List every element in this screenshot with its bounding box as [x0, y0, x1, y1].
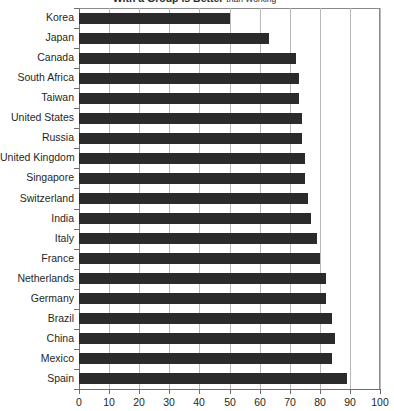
x-axis-label: 10 [94, 396, 124, 408]
y-axis-tick [74, 369, 79, 370]
bar [79, 333, 335, 344]
x-axis-label: 30 [154, 396, 184, 408]
gridline [380, 8, 381, 389]
chart-title-sub: than Working [226, 0, 276, 4]
y-axis-label: Canada [0, 52, 74, 63]
y-axis-label: United Kingdom [0, 152, 74, 163]
y-axis-tick [74, 28, 79, 29]
x-axis-label: 40 [184, 396, 214, 408]
y-axis-label: Germany [0, 293, 74, 304]
bar-row [79, 333, 380, 344]
bar [79, 13, 230, 24]
bar-row [79, 233, 380, 244]
y-axis-tick [74, 269, 79, 270]
x-axis-label: 80 [305, 396, 335, 408]
bar [79, 33, 269, 44]
y-axis-labels: KoreaJapanCanadaSouth AfricaTaiwanUnited… [0, 8, 74, 389]
bar-row [79, 133, 380, 144]
x-axis-tick [320, 389, 321, 394]
bar-row [79, 313, 380, 324]
x-axis-tick [109, 389, 110, 394]
y-axis-tick [74, 8, 79, 9]
y-axis-label: United States [0, 112, 74, 123]
y-axis-tick [74, 68, 79, 69]
bar-row [79, 173, 380, 184]
y-axis-label: South Africa [0, 72, 74, 83]
x-axis-tick [350, 389, 351, 394]
bar-row [79, 353, 380, 364]
bars-layer [79, 8, 380, 389]
bar [79, 93, 299, 104]
y-axis-label: Brazil [0, 313, 74, 324]
bar [79, 373, 347, 384]
bar [79, 173, 305, 184]
y-axis-label: Japan [0, 32, 74, 43]
y-axis-label: Italy [0, 233, 74, 244]
y-axis-tick [74, 188, 79, 189]
bar-row [79, 93, 380, 104]
bar [79, 273, 326, 284]
bar-row [79, 53, 380, 64]
y-axis-tick [74, 88, 79, 89]
x-axis-tick [230, 389, 231, 394]
bar-row [79, 253, 380, 264]
y-axis-label: China [0, 333, 74, 344]
bar [79, 133, 302, 144]
x-axis-label: 70 [275, 396, 305, 408]
y-axis-tick [74, 209, 79, 210]
y-axis-label: India [0, 213, 74, 224]
bar-row [79, 273, 380, 284]
x-axis-tick [260, 389, 261, 394]
y-axis-label: Mexico [0, 353, 74, 364]
x-axis-tick [169, 389, 170, 394]
x-axis-tick [79, 389, 80, 394]
bar-row [79, 213, 380, 224]
y-axis-label: Singapore [0, 172, 74, 183]
chart-title-main: With a Group is Better [113, 0, 224, 4]
y-axis-label: Russia [0, 132, 74, 143]
y-axis-tick [74, 329, 79, 330]
y-axis-tick [74, 148, 79, 149]
y-axis-label: Spain [0, 373, 74, 384]
bar [79, 353, 332, 364]
bar [79, 153, 305, 164]
bar [79, 253, 320, 264]
y-axis-tick [74, 349, 79, 350]
y-axis-label: France [0, 253, 74, 264]
y-axis-tick [74, 229, 79, 230]
bar-row [79, 113, 380, 124]
bar [79, 73, 299, 84]
y-axis-label: Switzerland [0, 193, 74, 204]
bar-row [79, 13, 380, 24]
bar [79, 53, 296, 64]
x-axis-tick [380, 389, 381, 394]
y-axis-label: Taiwan [0, 92, 74, 103]
chart-title: With a Group is Better than Working [0, 0, 389, 4]
y-axis-tick [74, 108, 79, 109]
bar [79, 233, 317, 244]
bar [79, 193, 308, 204]
bar [79, 313, 332, 324]
y-axis-tick [74, 249, 79, 250]
y-axis-tick [74, 289, 79, 290]
x-axis-label: 0 [64, 396, 94, 408]
x-axis-tick [199, 389, 200, 394]
x-axis-tick [290, 389, 291, 394]
bar [79, 293, 326, 304]
y-axis-label: Netherlands [0, 273, 74, 284]
x-axis-label: 60 [245, 396, 275, 408]
bar-row [79, 73, 380, 84]
bar-row [79, 373, 380, 384]
bar-row [79, 33, 380, 44]
y-axis-label: Korea [0, 12, 74, 23]
bar [79, 213, 311, 224]
x-axis-tick [139, 389, 140, 394]
bar-row [79, 193, 380, 204]
x-axis-label: 90 [335, 396, 365, 408]
bar [79, 113, 302, 124]
y-axis-tick [74, 48, 79, 49]
y-axis-tick [74, 128, 79, 129]
y-axis-tick [74, 309, 79, 310]
x-axis-label: 20 [124, 396, 154, 408]
